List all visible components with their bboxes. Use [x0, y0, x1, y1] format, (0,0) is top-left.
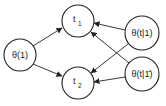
node-theta-t-given-not1: θ(t|1̄)	[125, 57, 159, 91]
edge-theta-t-1-to-t2	[91, 44, 128, 73]
edge-theta-t-1-to-t1	[94, 23, 125, 30]
node-theta-t-given-1-label: θ(t|1)	[132, 28, 153, 38]
edge-theta1-to-t1	[33, 28, 62, 46]
node-theta-t-given-1: θ(t|1)	[125, 16, 159, 50]
node-t1: t 1	[62, 5, 94, 37]
node-theta-t-given-not1-label: θ(t|1̄)	[132, 69, 153, 79]
edge-theta1-to-t2	[33, 64, 62, 76]
node-theta-1: θ(1)	[4, 39, 36, 71]
node-t1-subscript: 1	[78, 20, 82, 27]
bayes-network-diagram: t 1 t 2 θ(1) θ(t|1) θ(t|1̄)	[0, 0, 166, 106]
node-t2: t 2	[62, 67, 94, 99]
node-theta-1-label: θ(1)	[12, 50, 28, 60]
node-t2-subscript: 2	[78, 82, 82, 89]
edge-theta-t-not1-to-t2	[94, 77, 125, 82]
